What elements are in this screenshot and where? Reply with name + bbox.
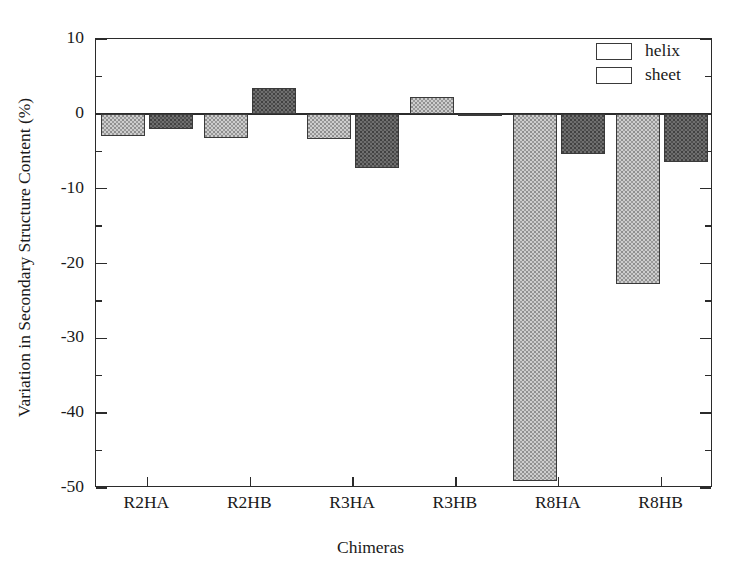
y-tick-major	[96, 487, 107, 488]
bar-sheet-R8HB	[664, 114, 708, 162]
legend-label-helix: helix	[645, 42, 680, 60]
y-tick-major	[700, 487, 711, 488]
x-axis-title: Chimeras	[0, 537, 741, 558]
x-tick-label-R8HB: R8HB	[601, 494, 721, 512]
y-tick-label: -10	[26, 179, 84, 197]
bar-sheet-R3HB	[458, 114, 502, 117]
y-tick-label: -20	[26, 254, 84, 272]
legend-item-helix: helix	[596, 40, 681, 62]
y-tick-label: -50	[26, 478, 84, 496]
legend-label-sheet: sheet	[645, 66, 681, 84]
y-tick-label: 10	[26, 29, 84, 47]
legend-item-sheet: sheet	[596, 64, 681, 86]
bar-helix-R3HA	[307, 114, 351, 139]
bar-helix-R8HA	[513, 114, 557, 481]
bar-sheet-R2HB	[252, 88, 296, 114]
plot-area	[95, 38, 712, 487]
bar-helix-R2HA	[101, 114, 145, 136]
bars-layer	[96, 39, 711, 486]
bar-helix-R3HB	[410, 97, 454, 113]
bar-sheet-R8HA	[561, 114, 605, 154]
bar-sheet-R3HA	[355, 114, 399, 169]
y-tick-label: 0	[26, 104, 84, 122]
y-tick-label: -40	[26, 403, 84, 421]
legend: helixsheet	[596, 40, 681, 88]
bar-helix-R2HB	[204, 114, 248, 138]
legend-swatch-helix-icon	[596, 43, 632, 60]
y-tick-label: -30	[26, 329, 84, 347]
bar-helix-R8HB	[616, 114, 660, 284]
legend-swatch-sheet-icon	[596, 67, 632, 84]
figure-container: Variation in Secondary Structure Content…	[0, 0, 741, 579]
bar-sheet-R2HA	[149, 114, 193, 129]
